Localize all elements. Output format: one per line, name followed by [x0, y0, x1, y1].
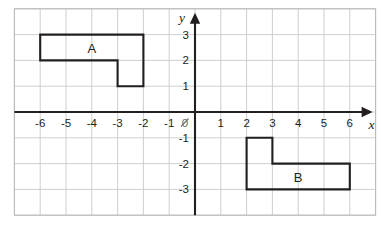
- x-tick-label: -2: [138, 117, 148, 129]
- x-tick-label: -5: [61, 117, 71, 129]
- x-axis-arrowhead: [362, 107, 373, 117]
- x-tick-label: -3: [112, 117, 122, 129]
- x-tick-label: 5: [321, 117, 327, 129]
- coordinate-plane-figure: -6-5-4-3-2-1123456321-1-2-30 xy AB: [0, 0, 383, 237]
- x-tick-label: 2: [243, 117, 249, 129]
- x-axis-name: x: [368, 117, 375, 132]
- x-tick-label: -4: [87, 117, 98, 129]
- x-tick-label: 6: [347, 117, 353, 129]
- y-tick-label: 1: [183, 80, 189, 92]
- x-tick-label: -6: [35, 117, 45, 129]
- axes: [14, 13, 372, 215]
- shape-label-a: A: [87, 41, 96, 56]
- y-tick-label: -3: [179, 183, 189, 195]
- y-tick-label: -2: [179, 158, 189, 170]
- y-tick-label: 2: [183, 54, 189, 66]
- y-axis-arrowhead: [190, 13, 200, 24]
- y-axis-name: y: [177, 10, 185, 25]
- y-tick-label: 3: [183, 29, 189, 41]
- x-tick-label: 3: [269, 117, 275, 129]
- x-tick-label: 4: [295, 117, 302, 129]
- y-tick-label: -1: [179, 132, 189, 144]
- axis-names: xy: [177, 10, 375, 132]
- x-tick-label: 1: [218, 117, 224, 129]
- shape-label-b: B: [294, 170, 303, 185]
- coordinate-plane-svg: -6-5-4-3-2-1123456321-1-2-30 xy AB: [0, 0, 383, 237]
- x-tick-label: -1: [164, 117, 174, 129]
